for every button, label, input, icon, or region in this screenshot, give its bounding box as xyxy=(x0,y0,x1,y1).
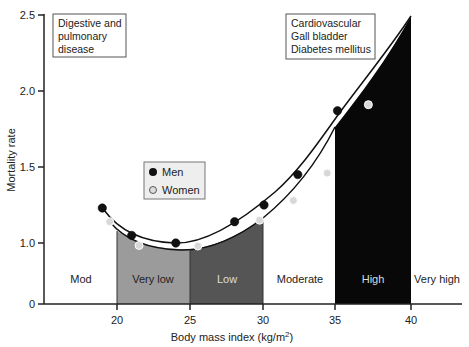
zone-label-moderate: Moderate xyxy=(277,273,323,285)
legend-men-marker xyxy=(149,168,157,176)
y-tick-2.5: 2.5 xyxy=(20,9,35,21)
svg-text:Cardiovascular: Cardiovascular xyxy=(291,17,362,29)
y-axis-title: Mortality rate xyxy=(5,128,17,192)
women-data-point xyxy=(323,169,331,177)
svg-text:Gall bladder: Gall bladder xyxy=(291,30,348,42)
svg-text:Diabetes mellitus: Diabetes mellitus xyxy=(291,43,371,55)
y-tick-1.0: 1.0 xyxy=(20,237,35,249)
women-data-point xyxy=(364,101,372,109)
y-tick-labels: 2.5 2.0 1.5 1.0 0 xyxy=(20,9,35,310)
svg-text:pulmonary: pulmonary xyxy=(58,30,108,42)
svg-text:disease: disease xyxy=(58,43,94,55)
y-tick-1.5: 1.5 xyxy=(20,161,35,173)
legend-women-label: Women xyxy=(162,184,200,196)
zone-label-high: High xyxy=(362,273,385,285)
annotation-right: Cardiovascular Gall bladder Diabetes mel… xyxy=(286,14,375,59)
x-tick-30: 30 xyxy=(257,314,269,326)
x-tick-20: 20 xyxy=(111,314,123,326)
x-tick-35: 35 xyxy=(329,314,341,326)
x-tick-40: 40 xyxy=(405,314,417,326)
annotation-left: Digestive and pulmonary disease xyxy=(53,14,126,57)
men-data-point xyxy=(172,239,180,247)
x-axis-title: Body mass index (kg/m2) xyxy=(171,330,293,343)
men-data-point xyxy=(230,218,238,226)
y-tick-0: 0 xyxy=(29,298,35,310)
women-data-point xyxy=(289,196,297,204)
y-tick-2.0: 2.0 xyxy=(20,85,35,97)
men-data-point xyxy=(333,107,341,115)
zone-label-low: Low xyxy=(217,273,237,285)
zone-label-mod: Mod xyxy=(70,273,91,285)
zone-label-very-low: Very low xyxy=(132,273,174,285)
women-data-point xyxy=(256,216,264,224)
legend-women-marker xyxy=(150,187,157,194)
bmi-mortality-chart: 2.5 2.0 1.5 1.0 0 20 25 30 35 40 Body ma… xyxy=(0,0,469,347)
data-points xyxy=(98,101,372,250)
women-data-point xyxy=(135,241,143,249)
x-tick-labels: 20 25 30 35 40 xyxy=(111,314,417,326)
men-data-point xyxy=(98,204,106,212)
legend: Men Women xyxy=(144,162,205,199)
men-data-point xyxy=(294,170,302,178)
women-data-point xyxy=(106,218,114,226)
svg-text:Digestive and: Digestive and xyxy=(58,17,122,29)
men-data-point xyxy=(260,201,268,209)
x-tick-25: 25 xyxy=(184,314,196,326)
zone-low-fill xyxy=(190,218,263,304)
zone-label-very-high: Very high xyxy=(414,273,460,285)
women-data-point xyxy=(194,242,202,250)
legend-men-label: Men xyxy=(162,166,183,178)
men-data-point xyxy=(128,231,136,239)
